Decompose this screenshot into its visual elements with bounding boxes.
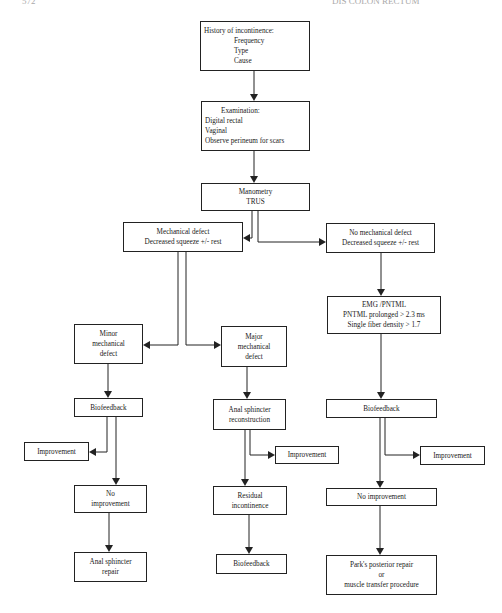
box-line: Biofeedback — [233, 559, 269, 569]
major-defect-box: Major mechanical defect — [221, 326, 287, 367]
box-line: No mechanical defect — [349, 228, 412, 238]
box-line: incontinence — [232, 501, 269, 511]
box-line: repair — [102, 567, 119, 577]
examination-item: Vaginal — [205, 126, 227, 136]
no-improvement-right-box: No improvement — [326, 488, 437, 506]
history-box: History of incontinence: Frequency Type … — [200, 21, 310, 71]
improvement-right-box: Improvement — [420, 446, 485, 465]
box-line: muscle transfer procedure — [344, 580, 419, 590]
history-item: Frequency — [204, 36, 264, 46]
manometry-line: TRUS — [246, 197, 264, 207]
box-line: Decreased squeeze +/- rest — [145, 237, 222, 247]
box-line: reconstruction — [229, 415, 270, 425]
box-line: Anal sphincter — [228, 405, 270, 415]
box-line: Single fiber density > 1.7 — [348, 320, 421, 330]
sphincter-reconstruction-box: Anal sphincter reconstruction — [213, 399, 286, 430]
box-line: Mechanical defect — [157, 227, 210, 237]
box-line: Biofeedback — [90, 403, 126, 413]
examination-title: Examination: — [205, 106, 260, 116]
examination-item: Digital rectal — [205, 116, 243, 126]
manometry-line: Manometry — [239, 187, 273, 197]
box-line: EMG /PNTML — [362, 300, 406, 310]
box-line: Minor — [100, 329, 118, 339]
box-line: Improvement — [37, 447, 76, 457]
box-line: Major — [245, 332, 263, 342]
box-line: mechanical — [92, 339, 125, 349]
residual-incontinence-box: Residual incontinence — [213, 486, 287, 515]
box-line: No improvement — [357, 492, 406, 502]
history-item: Cause — [204, 56, 252, 66]
improvement-middle-box: Improvement — [275, 446, 339, 464]
examination-item: Observe perineum for scars — [205, 136, 284, 146]
parks-repair-box: Park's posterior repair or muscle transf… — [326, 555, 437, 595]
no-mechanical-defect-box: No mechanical defect Decreased squeeze +… — [326, 223, 435, 253]
box-line: Improvement — [288, 450, 327, 460]
biofeedback-right-box: Biofeedback — [326, 399, 437, 418]
manometry-box: Manometry TRUS — [201, 183, 310, 211]
box-line: improvement — [91, 499, 129, 509]
box-line: PNTML prolonged > 2.3 ms — [343, 310, 425, 320]
box-line: No — [106, 489, 115, 499]
box-line: mechanical — [238, 342, 271, 352]
biofeedback-left-box: Biofeedback — [74, 398, 143, 417]
biofeedback-middle-box: Biofeedback — [216, 554, 287, 574]
box-line: Decreased squeeze +/- rest — [342, 238, 419, 248]
box-line: or — [379, 570, 385, 580]
history-title: History of incontinence: — [204, 26, 274, 36]
box-line: Residual — [237, 491, 262, 501]
sphincter-repair-box: Anal sphincter repair — [74, 552, 147, 582]
improvement-left-box: Improvement — [24, 442, 89, 461]
emg-pntml-box: EMG /PNTML PNTML prolonged > 2.3 ms Sing… — [327, 296, 441, 334]
box-line: Biofeedback — [363, 404, 399, 414]
box-line: defect — [100, 349, 118, 359]
mechanical-defect-box: Mechanical defect Decreased squeeze +/- … — [123, 222, 243, 252]
box-line: defect — [245, 352, 263, 362]
box-line: Improvement — [433, 451, 472, 461]
history-item: Type — [204, 46, 248, 56]
no-improvement-left-box: No improvement — [74, 485, 147, 513]
minor-defect-box: Minor mechanical defect — [74, 324, 143, 364]
box-line: Park's posterior repair — [350, 560, 413, 570]
box-line: Anal sphincter — [89, 557, 131, 567]
examination-box: Examination: Digital rectal Vaginal Obse… — [201, 101, 310, 151]
